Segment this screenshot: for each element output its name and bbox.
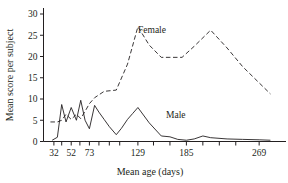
line-chart: 051015202530 325273129185269 Mean age (d… <box>0 0 288 183</box>
x-axis-title: Mean age (days) <box>117 166 184 178</box>
y-tick-label: 5 <box>33 116 38 126</box>
y-tick-label: 25 <box>28 31 38 41</box>
x-tick-label: 73 <box>85 148 95 158</box>
x-tick-label: 32 <box>49 148 59 158</box>
x-tick-label: 185 <box>179 148 194 158</box>
y-tick-label: 20 <box>28 52 38 62</box>
y-tick-label: 30 <box>28 9 38 19</box>
x-axis-ticks: 325273129185269 <box>49 142 266 158</box>
y-tick-label: 0 <box>33 137 38 147</box>
x-tick-label: 269 <box>252 148 267 158</box>
series-line-female <box>50 27 270 122</box>
y-axis-title: Mean score per subject <box>4 29 15 122</box>
y-tick-label: 10 <box>28 94 38 104</box>
series-label-female: Female <box>138 25 166 35</box>
y-tick-label: 15 <box>28 73 38 83</box>
x-tick-label: 129 <box>131 148 146 158</box>
y-axis-ticks: 051015202530 <box>28 9 44 147</box>
series-line-male <box>52 100 270 140</box>
data-series-group <box>50 27 270 140</box>
series-label-male: Male <box>166 110 186 120</box>
chart-figure: 051015202530 325273129185269 Mean age (d… <box>0 0 288 183</box>
x-tick-label: 52 <box>66 148 76 158</box>
